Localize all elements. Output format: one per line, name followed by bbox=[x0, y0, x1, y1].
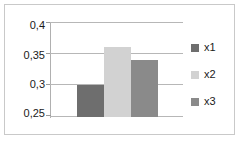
legend-label-x2: x2 bbox=[204, 69, 216, 80]
legend-item-x2[interactable]: x2 bbox=[191, 68, 236, 81]
legend-item-x3[interactable]: x3 bbox=[191, 95, 236, 108]
y-axis-labels: 0,4 0,35 0,3 0,25 bbox=[5, 5, 45, 136]
y-tick-label-3: 0,25 bbox=[5, 108, 45, 119]
legend-swatch-icon-x2 bbox=[191, 71, 199, 79]
legend-label-x1: x1 bbox=[204, 42, 216, 53]
bar-group bbox=[77, 22, 158, 117]
legend-swatch-icon-x3 bbox=[191, 98, 199, 106]
y-tick-label-2: 0,3 bbox=[5, 79, 45, 90]
legend-item-x1[interactable]: x1 bbox=[191, 41, 236, 54]
legend-label-x3: x3 bbox=[204, 96, 216, 107]
legend-swatch-icon-x1 bbox=[191, 44, 199, 52]
chart-legend: x1 x2 x3 bbox=[191, 41, 236, 122]
chart-container: 0,4 0,35 0,3 0,25 x1 x2 x3 bbox=[4, 4, 235, 135]
bar-x2[interactable] bbox=[104, 47, 131, 117]
y-tick-label-0: 0,4 bbox=[5, 20, 45, 31]
bar-x3[interactable] bbox=[131, 60, 158, 117]
plot-area bbox=[50, 22, 183, 117]
bar-x1[interactable] bbox=[77, 85, 104, 117]
y-tick-label-1: 0,35 bbox=[5, 50, 45, 61]
